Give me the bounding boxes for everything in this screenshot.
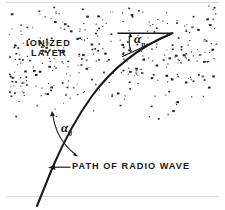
ionized-layer-label: IONIZEDLAYER xyxy=(26,38,71,59)
path-of-radio-wave-caption: PATH OF RADIO WAVE xyxy=(72,161,190,171)
radio-wave-refraction-figure: IONIZEDLAYER αn α0 PATH OF RADIO WAVE xyxy=(0,0,225,210)
ionized-layer-label-line2: LAYER xyxy=(26,48,71,58)
radio-wave-path xyxy=(37,33,172,206)
angle-alpha-n-subscript: n xyxy=(141,40,145,49)
angle-alpha-n-label: αn xyxy=(134,31,145,49)
ionized-layer-stipple xyxy=(9,5,218,119)
ionized-layer-label-line1: IONIZED xyxy=(26,38,71,48)
angle-alpha-0-label: α0 xyxy=(61,120,72,138)
angle-arc-upper xyxy=(129,35,131,52)
angle-alpha-0-subscript: 0 xyxy=(68,129,72,138)
figure-canvas xyxy=(0,0,225,210)
